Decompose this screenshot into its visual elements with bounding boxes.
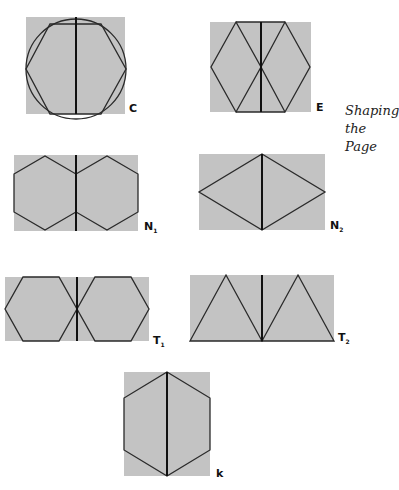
figure-label-e: E <box>316 101 324 114</box>
figure-t1: T1 <box>5 277 165 348</box>
figure-label-n2: N2 <box>330 219 343 233</box>
side-title-line-3: Page <box>345 138 399 156</box>
figure-e: E <box>210 22 324 114</box>
figure-k: k <box>124 372 224 480</box>
figure-label-n1: N1 <box>144 220 157 234</box>
figure-n2: N2 <box>199 154 343 233</box>
figure-label-k: k <box>216 467 224 480</box>
figure-t2: T2 <box>190 275 350 345</box>
side-title-line-1: Shaping <box>345 102 399 120</box>
figure-label-t2: T2 <box>338 331 350 345</box>
side-title-line-2: the <box>345 120 399 138</box>
side-title: Shaping the Page <box>345 102 399 156</box>
figure-c: C <box>26 17 137 119</box>
figure-label-t1: T1 <box>153 334 165 348</box>
figure-n1: N1 <box>14 155 157 234</box>
figure-label-c: C <box>129 102 137 115</box>
